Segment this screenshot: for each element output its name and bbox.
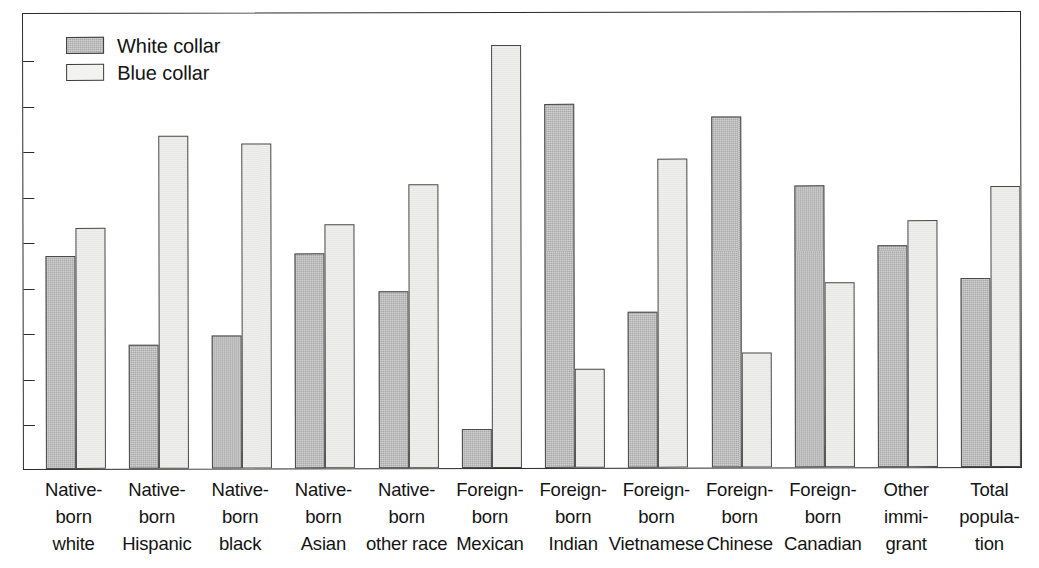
bar-white-collar[interactable] xyxy=(212,335,242,469)
bar-group xyxy=(699,12,783,467)
bar-blue-collar[interactable] xyxy=(158,136,189,469)
bar-blue-collar[interactable] xyxy=(491,45,522,468)
bar-white-collar[interactable] xyxy=(378,291,408,468)
x-axis-label: Native- born other race xyxy=(359,476,454,557)
bar-blue-collar[interactable] xyxy=(991,186,1022,467)
bar-white-collar[interactable] xyxy=(462,429,492,468)
bar-blue-collar[interactable] xyxy=(741,352,771,467)
x-axis-label: Native- born Asian xyxy=(276,476,371,557)
bar-white-collar[interactable] xyxy=(45,256,75,469)
bar-white-collar[interactable] xyxy=(295,253,325,468)
occupation-bar-chart: 908070605040302010 White collar Blue col… xyxy=(0,0,1039,568)
bar-group xyxy=(866,12,950,467)
x-axis-label: Foreign- born Canadian xyxy=(775,476,870,557)
bar-white-collar[interactable] xyxy=(544,104,575,468)
x-axis-label: Foreign- born Mexican xyxy=(442,476,537,557)
x-axis-label: Native- born white xyxy=(26,476,121,557)
bar-white-collar[interactable] xyxy=(628,312,658,468)
x-axis-label: Other immi- grant xyxy=(859,476,954,557)
legend-item-white-collar: White collar xyxy=(66,32,220,59)
bar-white-collar[interactable] xyxy=(129,345,159,469)
bar-blue-collar[interactable] xyxy=(408,184,439,468)
bar-group xyxy=(283,13,367,468)
legend-swatch-blue-collar-icon xyxy=(66,64,104,81)
bar-blue-collar[interactable] xyxy=(908,220,939,467)
x-axis-category-labels: Native- born whiteNative- born HispanicN… xyxy=(22,476,1021,566)
bar-blue-collar[interactable] xyxy=(75,227,106,468)
bar-group xyxy=(782,12,866,467)
legend-label-white-collar: White collar xyxy=(117,35,220,55)
legend-swatch-white-collar-icon xyxy=(66,37,104,54)
x-axis-label: Foreign- born Vietnamese xyxy=(609,476,704,557)
bar-group xyxy=(533,13,617,468)
bar-white-collar[interactable] xyxy=(794,185,825,467)
x-axis-label: Foreign- born Indian xyxy=(526,476,621,557)
x-axis-label: Total popula- tion xyxy=(942,476,1037,557)
bar-group xyxy=(449,13,533,468)
bar-group xyxy=(366,13,450,468)
legend-item-blue-collar: Blue collar xyxy=(66,59,220,86)
bar-blue-collar[interactable] xyxy=(325,224,356,468)
bar-group xyxy=(616,13,700,468)
plot-area: 908070605040302010 White collar Blue col… xyxy=(22,11,1022,470)
bar-white-collar[interactable] xyxy=(961,277,991,467)
bar-blue-collar[interactable] xyxy=(824,282,854,467)
chart-legend: White collar Blue collar xyxy=(66,32,220,86)
bar-group xyxy=(949,12,1033,467)
bar-blue-collar[interactable] xyxy=(575,368,605,467)
bar-blue-collar[interactable] xyxy=(241,144,272,469)
x-axis-label: Native- born black xyxy=(193,476,288,557)
x-axis-label: Foreign- born Chinese xyxy=(692,476,787,557)
x-axis-label: Native- born Hispanic xyxy=(109,476,204,557)
bar-white-collar[interactable] xyxy=(878,245,908,467)
legend-label-blue-collar: Blue collar xyxy=(117,62,209,82)
bar-blue-collar[interactable] xyxy=(658,159,689,468)
bar-white-collar[interactable] xyxy=(711,117,742,468)
